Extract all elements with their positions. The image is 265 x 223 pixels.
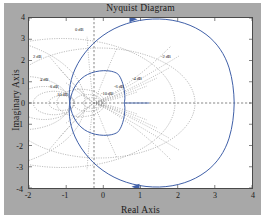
x-tick-label: 2 [168, 191, 188, 200]
db-annotation-0db: 0 dB [75, 28, 83, 33]
nyquist-diagram-screenshot: Nyquist Diagram Real Axis Imaginary Axis… [0, 0, 265, 223]
x-tick-label: 1 [130, 191, 150, 200]
n-circle-arc [94, 103, 171, 160]
y-tick-label: 3 [5, 34, 25, 43]
x-tick-label: 0 [93, 191, 113, 200]
y-tick-label: 2 [5, 56, 25, 65]
x-tick-label: -2 [18, 191, 38, 200]
db-annotation-2db: 2 dB [33, 55, 41, 60]
x-tick-label: 3 [205, 191, 225, 200]
x-tick-label: 4 [243, 191, 263, 200]
y-tick-label: 4 [5, 13, 25, 22]
x-tick-label: -1 [55, 191, 75, 200]
x-axis-label: Real Axis [28, 205, 253, 215]
n-circle-arc [59, 103, 94, 138]
y-tick-label: -1 [3, 120, 23, 129]
n-circle-arc [94, 103, 179, 150]
y-tick-label: 0 [5, 99, 25, 108]
plot-area: 0 dB 2 dB 4 dB 6 dB 10 dB -2 dB -4 dB -6… [28, 17, 253, 189]
db-annotation-4db: 4 dB [40, 78, 48, 83]
nyquist-plot-svg [29, 18, 252, 188]
db-annotation-minus4db: -4 dB [132, 77, 142, 82]
db-annotation-minus10db: -10 dB [101, 92, 113, 97]
y-tick-label: -2 [3, 142, 23, 151]
db-annotation-6db: 6 dB [50, 85, 58, 90]
nyquist-curve-upper [69, 19, 234, 135]
y-tick-label: 1 [5, 77, 25, 86]
n-circle-arc [94, 103, 117, 158]
db-annotation-minus6db: -6 dB [114, 85, 124, 90]
page-title: Nyquist Diagram [28, 3, 253, 13]
db-annotation-minus2db: -2 dB [161, 55, 171, 60]
db-annotation-10db: 10 dB [57, 93, 68, 98]
y-tick-label: -3 [3, 163, 23, 172]
